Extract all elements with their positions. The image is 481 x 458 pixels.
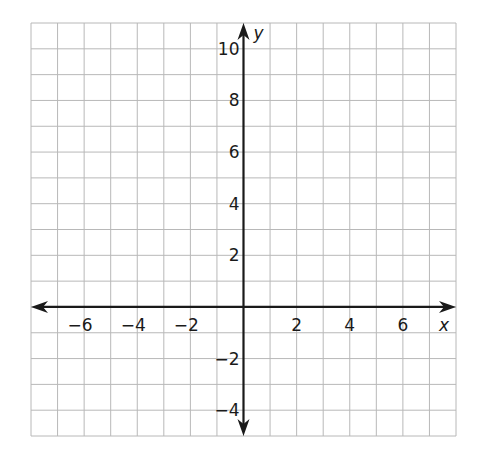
x-tick-label: 2 bbox=[291, 315, 302, 335]
y-tick-label: 6 bbox=[229, 142, 240, 162]
axis-names: xy bbox=[253, 23, 450, 335]
x-tick-label: −4 bbox=[121, 315, 146, 335]
x-tick-label: 6 bbox=[397, 315, 408, 335]
y-axis-label: y bbox=[253, 23, 265, 43]
x-tick-label: −6 bbox=[68, 315, 93, 335]
x-axis-tick-labels: −6−4−2246 bbox=[68, 315, 409, 335]
x-tick-label: 4 bbox=[344, 315, 355, 335]
x-axis-label: x bbox=[438, 315, 450, 335]
x-tick-label: −2 bbox=[174, 315, 199, 335]
y-tick-label: −2 bbox=[214, 349, 239, 369]
y-tick-label: 4 bbox=[229, 194, 240, 214]
y-tick-label: 10 bbox=[218, 39, 240, 59]
y-tick-label: −4 bbox=[214, 400, 239, 420]
coordinate-plane: −6−4−2246 −4−2246810 xy bbox=[0, 0, 481, 458]
y-tick-label: 2 bbox=[229, 245, 240, 265]
y-tick-label: 8 bbox=[229, 90, 240, 110]
